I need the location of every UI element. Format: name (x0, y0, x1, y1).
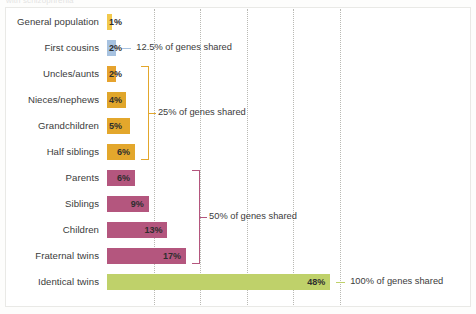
annotation-text: 100% of genes shared (350, 276, 443, 287)
bar-value-label: 4% (109, 92, 122, 108)
group-bracket (192, 170, 200, 264)
annotation-text: 50% of genes shared (209, 211, 297, 222)
category-label: Grandchildren (0, 113, 99, 139)
category-label: Nieces/nephews (0, 87, 99, 113)
bar-value-label: 5% (109, 118, 122, 134)
clipped-caption-text: with schizophrenia (6, 0, 206, 6)
category-label: Parents (0, 165, 99, 191)
annotation-dash (336, 282, 345, 283)
bar-row: Fraternal twins17% (0, 243, 476, 269)
chart-figure: with schizophrenia General population1%F… (0, 0, 476, 314)
bar-value-label: 6% (107, 170, 130, 186)
annotation-text: 12.5% of genes shared (136, 42, 232, 53)
category-label: Half siblings (0, 139, 99, 165)
category-label: First cousins (0, 35, 99, 61)
bar-value-label: 2% (109, 66, 122, 82)
category-label: General population (0, 9, 99, 35)
bar-row: General population1% (0, 9, 476, 35)
bar-value-label: 48% (107, 274, 325, 290)
bar-value-label: 17% (107, 248, 181, 264)
annotation-text: 25% of genes shared (158, 107, 246, 118)
group-bracket (141, 66, 149, 160)
bar-value-label: 1% (109, 14, 122, 30)
bar-row: First cousins2% (0, 35, 476, 61)
bar-row: Half siblings6% (0, 139, 476, 165)
bar-row: Parents6% (0, 165, 476, 191)
bracket-tick (149, 113, 156, 114)
bar-row: Uncles/aunts2% (0, 61, 476, 87)
bar-value-label: 13% (107, 222, 162, 238)
category-label: Children (0, 217, 99, 243)
bar-value-label: 9% (107, 196, 144, 212)
bar-value-label: 2% (109, 40, 122, 56)
bar-value-label: 6% (107, 144, 130, 160)
annotation-dash (122, 48, 131, 49)
category-label: Fraternal twins (0, 243, 99, 269)
category-label: Uncles/aunts (0, 61, 99, 87)
category-label: Siblings (0, 191, 99, 217)
category-label: Identical twins (0, 269, 99, 295)
bracket-tick (200, 217, 207, 218)
